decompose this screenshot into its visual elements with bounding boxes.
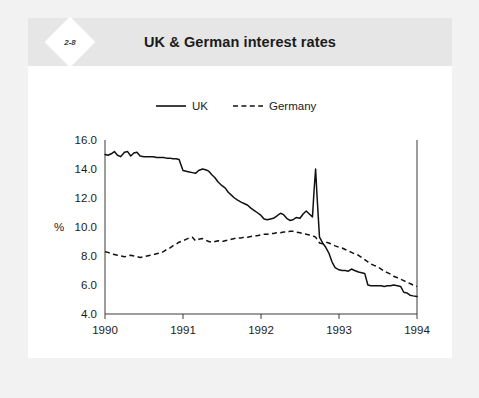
figure-title: UK & German interest rates bbox=[28, 18, 452, 66]
legend-label-germany: Germany bbox=[269, 100, 317, 112]
y-axis-tick-label: 6.0 bbox=[81, 279, 97, 291]
interest-rates-line-chart: UKGermany4.06.08.010.012.014.016.0%19901… bbox=[28, 66, 452, 358]
legend-label-uk: UK bbox=[192, 100, 208, 112]
x-axis-tick-label: 1992 bbox=[248, 324, 274, 336]
plot-frame bbox=[105, 140, 417, 314]
series-line-germany bbox=[105, 231, 417, 286]
y-axis-title: % bbox=[54, 221, 64, 233]
y-axis-tick-label: 14.0 bbox=[75, 163, 97, 175]
y-axis-tick-label: 12.0 bbox=[75, 192, 97, 204]
figure-card: 2-8 UK & German interest rates UKGermany… bbox=[28, 18, 452, 358]
x-axis-tick-label: 1991 bbox=[170, 324, 196, 336]
x-axis-tick-label: 1993 bbox=[326, 324, 352, 336]
chart-area: UKGermany4.06.08.010.012.014.016.0%19901… bbox=[28, 66, 452, 358]
x-axis-tick-label: 1994 bbox=[404, 324, 430, 336]
page-root: 2-8 UK & German interest rates UKGermany… bbox=[0, 0, 479, 398]
y-axis-tick-label: 4.0 bbox=[81, 308, 97, 320]
y-axis-tick-label: 8.0 bbox=[81, 250, 97, 262]
y-axis-tick-label: 10.0 bbox=[75, 221, 97, 233]
series-line-uk bbox=[105, 152, 417, 297]
y-axis-tick-label: 16.0 bbox=[75, 134, 97, 146]
x-axis-tick-label: 1990 bbox=[92, 324, 118, 336]
